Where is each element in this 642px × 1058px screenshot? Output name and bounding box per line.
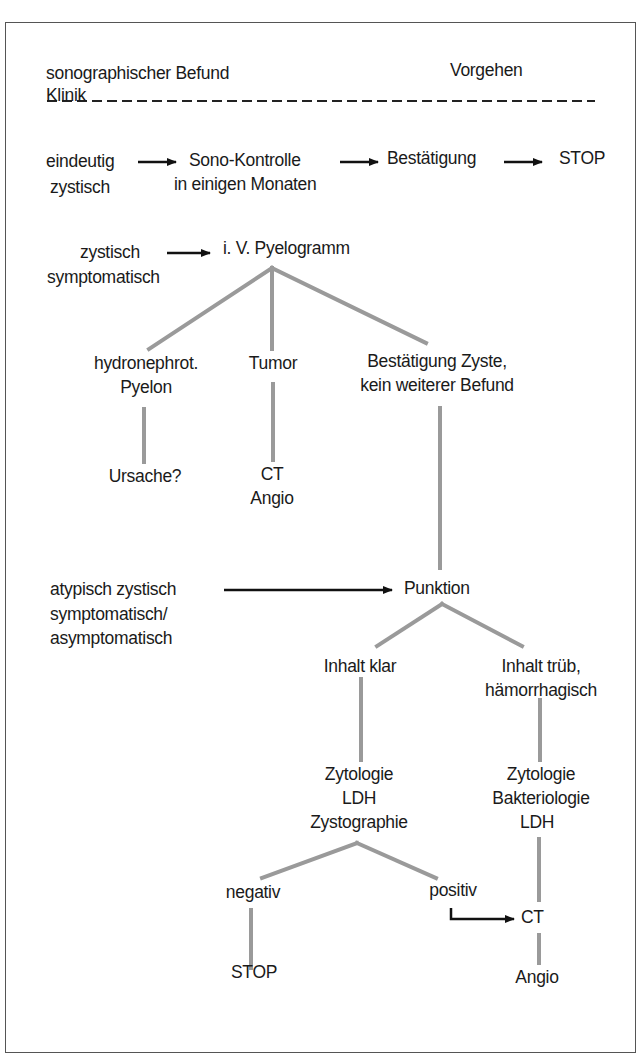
node-hydronephrot: hydronephrot. bbox=[94, 352, 198, 374]
node-bakteriologie: Bakteriologie bbox=[492, 787, 589, 809]
node-sono-kontrolle: Sono-Kontrolle bbox=[189, 149, 301, 171]
node-ldh-left: LDH bbox=[342, 787, 376, 809]
node-pyelogramm: i. V. Pyelogramm bbox=[223, 237, 350, 259]
node-positiv: positiv bbox=[429, 879, 477, 901]
node-inhalt-trueb: Inhalt trüb, bbox=[501, 655, 580, 677]
node-punktion: Punktion bbox=[404, 577, 470, 599]
header-column-clinic: Klinik bbox=[46, 84, 86, 106]
condition-atypisch: atypisch zystisch bbox=[50, 578, 176, 600]
node-pyelon: Pyelon bbox=[120, 376, 172, 398]
condition-symptomatisch: symptomatisch bbox=[47, 266, 160, 288]
header-column-findings: sonographischer Befund bbox=[46, 62, 229, 84]
node-zytologie-left: Zytologie bbox=[325, 763, 393, 785]
node-bestaetigung: Bestätigung bbox=[387, 147, 476, 169]
condition-zystisch: zystisch bbox=[50, 176, 110, 198]
node-angio: Angio bbox=[250, 487, 293, 509]
node-kein-weiterer-befund: kein weiterer Befund bbox=[360, 374, 514, 396]
node-sono-kontrolle-detail: in einigen Monaten bbox=[174, 173, 317, 195]
node-zytologie-right: Zytologie bbox=[507, 763, 575, 785]
condition-eindeutig: eindeutig bbox=[46, 150, 114, 172]
node-angio-final: Angio bbox=[515, 966, 558, 988]
node-ursache: Ursache? bbox=[109, 465, 182, 487]
node-ct: CT bbox=[261, 463, 284, 485]
node-tumor: Tumor bbox=[249, 352, 297, 374]
condition-zystisch-symptomatisch: zystisch bbox=[80, 241, 140, 263]
node-bestaetigung-zyste: Bestätigung Zyste, bbox=[367, 350, 507, 372]
node-stop-final: STOP bbox=[231, 961, 277, 983]
node-ct-final: CT bbox=[521, 906, 544, 928]
condition-symptomatisch-slash: symptomatisch/ bbox=[50, 603, 167, 625]
node-negativ: negativ bbox=[226, 881, 280, 903]
node-haemorrhagisch: hämorrhagisch bbox=[485, 679, 597, 701]
condition-asymptomatisch: asymptomatisch bbox=[50, 627, 172, 649]
node-inhalt-klar: Inhalt klar bbox=[324, 655, 397, 677]
node-zystographie: Zystographie bbox=[310, 811, 408, 833]
header-column-procedure: Vorgehen bbox=[450, 59, 523, 81]
node-stop: STOP bbox=[559, 147, 605, 169]
node-ldh-right: LDH bbox=[520, 811, 554, 833]
